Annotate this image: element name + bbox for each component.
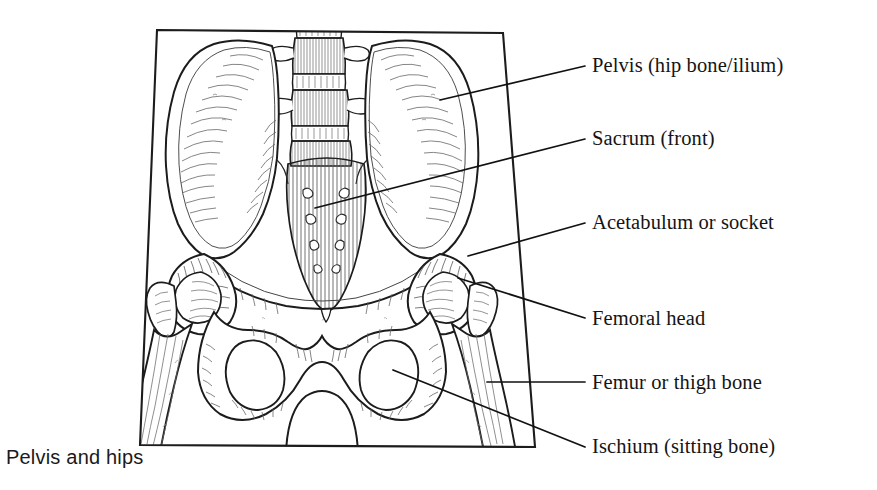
label-pelvis: Pelvis (hip bone/ilium): [592, 55, 783, 76]
figure-root: Pelvis (hip bone/ilium) Sacrum (front) A…: [0, 0, 877, 490]
greater-trochanter-right: [467, 282, 497, 337]
label-acetabulum: Acetabulum or socket: [592, 212, 774, 233]
pubic-arch: [286, 391, 358, 452]
label-sacrum: Sacrum (front): [592, 128, 715, 149]
label-ischium: Ischium (sitting bone): [592, 436, 775, 457]
leader-acetabulum: [468, 223, 585, 256]
lumbar-vertebrae: [267, 0, 374, 166]
ilium-right: [365, 40, 478, 258]
ilium-left: [166, 40, 279, 258]
greater-trochanter-left: [146, 282, 176, 337]
femur-shaft-right: [452, 324, 516, 452]
label-femoral-head: Femoral head: [592, 308, 705, 329]
label-femur: Femur or thigh bone: [592, 372, 762, 393]
figure-caption: Pelvis and hips: [6, 447, 144, 467]
sacrum: [287, 158, 366, 322]
illustration-body: [128, 0, 585, 452]
femur-shaft-left: [128, 324, 192, 452]
